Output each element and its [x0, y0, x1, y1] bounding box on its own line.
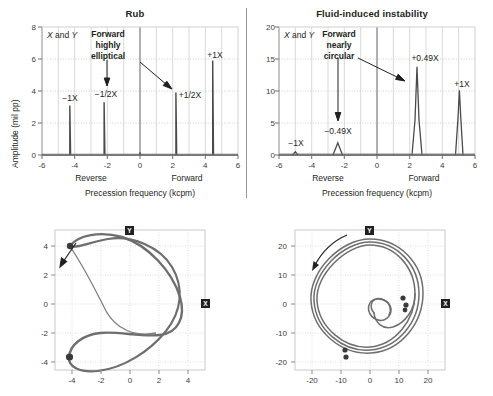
fluid-orbit-xtick-20: 20	[416, 376, 440, 385]
fluid-annotation-line1: Forward	[322, 29, 356, 39]
rub-xtick-4: 4	[193, 161, 217, 170]
fluid-orbit-panel: 20 10 0 -10 -20	[247, 205, 493, 396]
rub-xtick-0: 0	[128, 161, 152, 170]
rub-orbit-xtick--4: -4	[60, 376, 84, 385]
rub-orbit-panel: 4 2 0 -2 -4	[0, 205, 246, 396]
fluid-orbit-x-probe-badge: X	[441, 299, 450, 308]
fluid-orbit-keyphasor-dot-1	[400, 295, 405, 300]
rub-peak-label-minus1x: −1X	[52, 93, 88, 103]
rub-orbit-y-probe-badge: Y	[125, 226, 134, 235]
fluid-legend: X and Y	[284, 30, 314, 40]
rub-orbit-x-probe-badge: X	[201, 299, 210, 308]
fluid-xtick--4: -4	[300, 161, 324, 170]
fluid-orbit-xtick-0: 0	[358, 376, 382, 385]
fluid-xtick-0: 0	[365, 161, 389, 170]
fluid-orbit-xtick-10: 10	[387, 376, 411, 385]
fluid-orbit-y-probe-badge: Y	[365, 226, 374, 235]
rub-legend: X and Y	[47, 30, 77, 40]
fluid-forward-label: Forward	[394, 173, 454, 183]
rub-orbit-xtick-0: 0	[118, 376, 142, 385]
fluid-annotation: Forward nearly circular	[313, 29, 365, 62]
fluid-orbit-xtick--20: -20	[300, 376, 324, 385]
rub-peak-label-minushalfx: −1/2X	[85, 89, 127, 99]
rub-xtick-2: 2	[161, 161, 185, 170]
rub-spectrum-panel: Rub Amplitude (mil pp) 0 2 4 6 8	[0, 0, 246, 205]
fluid-xtick--6: -6	[267, 161, 291, 170]
fluid-spectrum-panel: Fluid-induced instability 0 5 10 15 20	[247, 0, 493, 205]
rub-annotation-line1: Forward	[91, 29, 125, 39]
rub-reverse-label: Reverse	[61, 173, 121, 183]
fluid-orbit-keyphasor-dot-5	[343, 354, 348, 359]
fluid-orbit-keyphasor-dot-3	[403, 308, 408, 313]
rub-orbit-xtick--2: -2	[89, 376, 113, 385]
rub-xtick--2: -2	[95, 161, 119, 170]
rub-x-axis-label: Precession frequency (kcpm)	[40, 188, 240, 198]
figure-root: Rub Amplitude (mil pp) 0 2 4 6 8	[0, 0, 493, 396]
fluid-annotation-line3: circular	[324, 51, 355, 61]
rub-xtick--6: -6	[30, 161, 54, 170]
fluid-orbit-xtick--10: -10	[329, 376, 353, 385]
rub-peak-label-plus1x: +1X	[198, 50, 232, 60]
fluid-xtick-4: 4	[430, 161, 454, 170]
fluid-xtick--2: -2	[332, 161, 356, 170]
fluid-orbit-keyphasor-dot-2	[403, 302, 408, 307]
fluid-peak-label-minus049x: −0.49X	[313, 126, 363, 136]
rub-forward-label: Forward	[157, 173, 217, 183]
fluid-peak-label-minus1x: −1X	[280, 138, 312, 148]
rub-peak-label-plushalfx: +1/2X	[168, 90, 212, 100]
rub-annotation-line2: highly	[95, 40, 120, 50]
fluid-xtick-2: 2	[398, 161, 422, 170]
rub-xtick--4: -4	[63, 161, 87, 170]
rub-annotation: Forward highly elliptical	[80, 29, 136, 62]
fluid-annotation-line2: nearly	[326, 40, 351, 50]
fluid-x-axis-label: Precession frequency (kcpm)	[277, 188, 477, 198]
fluid-peak-label-plus1x: +1X	[445, 79, 479, 89]
rub-orbit-keyphasor-dot-2	[66, 353, 73, 360]
fluid-xtick-6: 6	[463, 161, 487, 170]
rub-orbit-xtick-4: 4	[176, 376, 200, 385]
fluid-orbit-keyphasor-dot-4	[342, 347, 347, 352]
fluid-reverse-label: Reverse	[298, 173, 358, 183]
fluid-peak-label-plus049x: +0.49X	[400, 53, 450, 63]
rub-annotation-line3: elliptical	[91, 51, 125, 61]
rub-orbit-xtick-2: 2	[147, 376, 171, 385]
